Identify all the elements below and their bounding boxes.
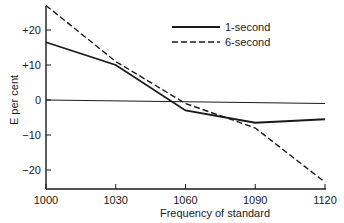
x-tick-label: 1090	[243, 194, 267, 206]
y-tick-label: −10	[22, 129, 41, 141]
y-tick-label: 0	[35, 94, 41, 106]
series-lines	[46, 6, 325, 183]
series-6-second	[46, 6, 325, 183]
axes	[46, 6, 326, 189]
legend-label: 1-second	[225, 21, 270, 33]
x-tick-label: 1030	[104, 194, 128, 206]
y-tick-label: +20	[22, 24, 41, 36]
y-tick-label: +10	[22, 59, 41, 71]
legend: 1-second6-second	[172, 21, 270, 48]
y-axis-label: E per cent	[8, 75, 20, 125]
series-1-second	[46, 42, 325, 123]
x-tick-label: 1000	[34, 194, 58, 206]
x-tick-label: 1120	[313, 194, 337, 206]
legend-label: 6-second	[225, 36, 270, 48]
zero-reference-line	[46, 100, 325, 104]
y-tick-label: −20	[22, 164, 41, 176]
x-ticks: 10001030106010901120	[34, 184, 337, 206]
line-chart: +20+100−10−20 10001030106010901120 1-sec…	[0, 0, 344, 223]
x-axis-label: Frequency of standard	[160, 207, 270, 219]
x-tick-label: 1060	[173, 194, 197, 206]
